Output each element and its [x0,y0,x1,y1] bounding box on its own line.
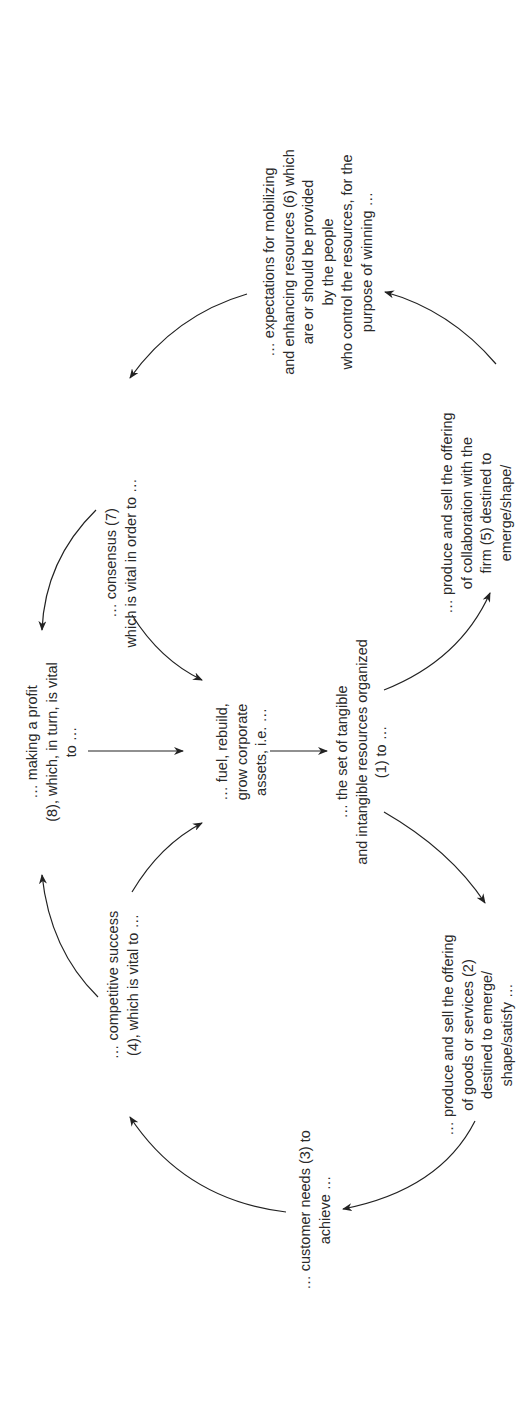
arrow-consensus-to-profit [42,510,96,630]
arrow-resources-to-offering-goods [384,812,485,903]
node-text-line: which is vital in order to … [121,478,141,647]
arrow-competitive-to-profit [42,875,98,997]
node-consensus: … consensus (7) which is vital in order … [102,478,141,647]
node-text-line: purpose of winning … [357,149,377,375]
node-text-line: assets, i.e. … [252,703,272,801]
node-text-line: … customer needs (3) to [296,1130,316,1290]
node-customer-needs: … customer needs (3) to achieve … [296,1130,335,1290]
node-text-line: … the set of tangible [333,639,353,865]
node-text-line: are or should be provided [299,149,319,375]
node-text-line: (8), which, in turn, is vital [42,662,62,822]
node-text-line: (1) to … [372,639,392,865]
arrow-consensus-to-fuel [132,615,202,680]
node-text-line: emerge/shape/ [497,412,517,613]
node-text-line: by the people [318,149,338,375]
node-text-line: shape/satisfy … [498,934,518,1135]
node-offering-goods-services: … produce and sell the offering of goods… [439,934,517,1135]
node-text-line: grow corporate [232,703,252,801]
arrow-customer-needs-to-competitive-success [130,1117,286,1212]
node-text-line: … consensus (7) [102,478,122,647]
node-text-line: … competitive success [104,911,124,1059]
node-text-line: destined to emerge/ [478,934,498,1135]
node-text-line: … produce and sell the offering [438,412,458,613]
node-competitive-success: … competitive success (4), which is vita… [104,911,143,1059]
node-text-line: to … [62,662,82,822]
arrow-collab-to-expectations [385,292,496,364]
node-text-line: … making a profit [23,662,43,822]
node-offering-collaboration: … produce and sell the offering of colla… [438,412,516,613]
arrow-expectations-to-consensus [130,294,247,378]
node-fuel-corporate-assets: … fuel, rebuild, grow corporate assets, … [213,703,272,801]
node-tangible-intangible-resources: … the set of tangible and intangible res… [333,639,392,865]
arrow-competitive-to-fuel [132,823,202,892]
node-text-line: and enhancing resources (6) which [279,149,299,375]
node-text-line: of goods or services (2) [459,934,479,1135]
node-expectations-resources: … expectations for mobilizing and enhanc… [260,149,377,375]
node-text-line: and intangible resources organized [352,639,372,865]
node-text-line: … produce and sell the offering [439,934,459,1135]
node-making-profit: … making a profit (8), which, in turn, i… [23,662,82,822]
node-text-line: who control the resources, for the [338,149,358,375]
node-text-line: … expectations for mobilizing [260,149,280,375]
node-text-line: (4), which is vital to … [123,911,143,1059]
node-text-line: achieve … [315,1130,335,1290]
node-text-line: … fuel, rebuild, [213,703,233,801]
node-text-line: of collaboration with the [458,412,478,613]
node-text-line: firm (5) destined to [477,412,497,613]
